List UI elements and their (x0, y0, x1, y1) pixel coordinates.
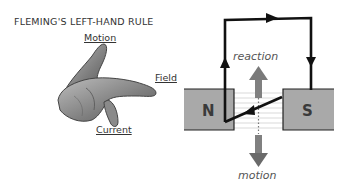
wire-arrow-left (243, 105, 255, 115)
wire-arrow-up (220, 57, 230, 68)
wire-arrow-right (266, 13, 278, 23)
motor-diagram: N S (0, 0, 349, 188)
reaction-arrow-shaft (255, 78, 262, 98)
south-pole-label: S (302, 102, 313, 120)
reaction-label: reaction (233, 50, 278, 63)
north-pole-label: N (202, 102, 215, 120)
motion-output-label: motion (238, 169, 277, 182)
reaction-arrow-head (249, 66, 268, 80)
motion-arrow-head (249, 153, 268, 167)
motion-arrow-shaft (255, 135, 262, 155)
wire-arrow-down (306, 57, 316, 67)
